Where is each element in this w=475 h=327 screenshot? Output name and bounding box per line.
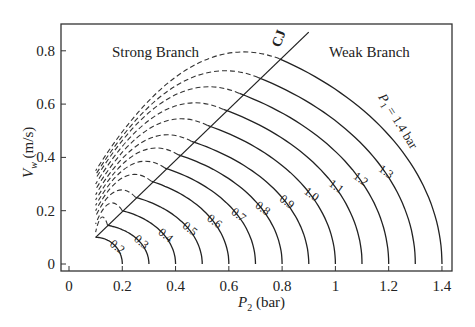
y-tick-label: 0.8: [36, 43, 55, 59]
x-tick-label: 1.4: [433, 278, 452, 294]
x-tick-label: 0: [65, 278, 73, 294]
x-axis-label: P2 (bar): [237, 294, 285, 313]
curve-labels: 0.20.30.40.50.60.70.80.91.01.11.21.3P1 =…: [107, 90, 421, 257]
weak-branch-annotation: Weak Branch: [329, 44, 410, 60]
x-tick-label: 0.8: [273, 278, 292, 294]
p1-annotation: P1 = 1.4 bar: [373, 90, 421, 153]
strong-branch-curve: [96, 87, 240, 179]
y-tick-label: 0.6: [36, 96, 55, 112]
strong-branch-curve: [96, 203, 123, 224]
strong-branch-annotation: Strong Branch: [112, 44, 200, 60]
curve-label: 0.5: [180, 219, 200, 239]
curve-label: 0.2: [107, 237, 127, 257]
x-tick-label: 0.2: [113, 278, 132, 294]
chart: 0.20.30.40.50.60.70.80.91.01.11.21.3P1 =…: [0, 0, 475, 327]
y-tick-label: 0.4: [36, 149, 55, 165]
x-tick-label: 0.4: [166, 278, 185, 294]
strong-branch-curve: [96, 135, 192, 195]
strong-branch-curve: [96, 52, 280, 171]
curve-label: 0.3: [131, 232, 151, 252]
x-tick-label: 1: [332, 278, 340, 294]
curves: [96, 52, 442, 264]
cj-annotation: CJ: [269, 28, 289, 49]
x-tick-label: 1.2: [379, 278, 398, 294]
curve-label: 0.4: [156, 225, 176, 245]
y-tick-label: 0: [48, 256, 56, 272]
x-tick-label: 0.6: [219, 278, 238, 294]
y-tick-label: 0.2: [36, 203, 55, 219]
